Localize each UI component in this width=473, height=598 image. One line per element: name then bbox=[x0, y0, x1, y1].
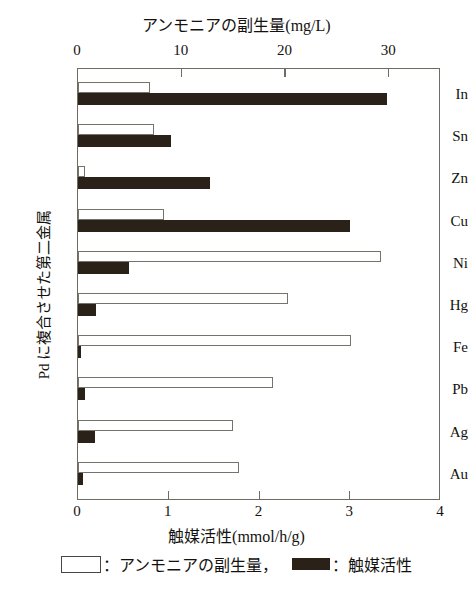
bar-ammonia-in bbox=[78, 82, 150, 93]
bar-ammonia-hg bbox=[78, 293, 288, 304]
top-tick-mark bbox=[77, 68, 78, 77]
bottom-tick-label: 3 bbox=[346, 503, 354, 520]
bar-activity-ni bbox=[78, 262, 129, 274]
category-label-cu: Cu bbox=[401, 212, 473, 229]
bottom-tick-label: 0 bbox=[73, 503, 81, 520]
bottom-tick-label: 4 bbox=[436, 503, 444, 520]
bottom-axis-title: 触媒活性(mmol/h/g) bbox=[0, 523, 473, 547]
legend-item-open: ：アンモニアの副生量， bbox=[61, 552, 278, 576]
bar-activity-pb bbox=[78, 388, 85, 400]
bottom-tick-label: 1 bbox=[164, 503, 172, 520]
bar-ammonia-fe bbox=[78, 335, 351, 346]
bar-activity-in bbox=[78, 93, 387, 105]
bar-activity-ag bbox=[78, 431, 95, 443]
category-label-ag: Ag bbox=[401, 423, 473, 440]
bar-activity-zn bbox=[78, 177, 210, 189]
bar-activity-sn bbox=[78, 135, 171, 147]
top-tick-label: 0 bbox=[73, 42, 81, 59]
category-label-in: In bbox=[401, 86, 473, 103]
legend-label-filled: ：触媒活性 bbox=[332, 552, 412, 576]
bottom-tick-label: 2 bbox=[255, 503, 263, 520]
bar-ammonia-pb bbox=[78, 377, 273, 388]
legend-label-open: ：アンモニアの副生量， bbox=[103, 552, 278, 576]
bar-activity-hg bbox=[78, 304, 96, 316]
top-tick-mark bbox=[181, 68, 182, 77]
bar-ammonia-sn bbox=[78, 124, 154, 135]
bar-activity-fe bbox=[78, 346, 81, 358]
category-label-sn: Sn bbox=[401, 128, 473, 145]
top-tick-label: 30 bbox=[381, 42, 396, 59]
bottom-tick-mark bbox=[168, 491, 169, 500]
category-label-fe: Fe bbox=[401, 339, 473, 356]
category-label-zn: Zn bbox=[401, 170, 473, 187]
category-label-hg: Hg bbox=[401, 297, 473, 314]
filled-bar-swatch-icon bbox=[292, 558, 330, 570]
open-bar-swatch-icon bbox=[61, 556, 101, 573]
bottom-tick-mark bbox=[259, 491, 260, 500]
bar-activity-cu bbox=[78, 220, 350, 232]
bar-activity-au bbox=[78, 473, 83, 485]
top-tick-label: 20 bbox=[277, 42, 292, 59]
bar-ammonia-au bbox=[78, 462, 239, 473]
top-tick-label: 10 bbox=[173, 42, 188, 59]
bar-ammonia-zn bbox=[78, 166, 85, 177]
bar-ammonia-cu bbox=[78, 209, 164, 220]
y-axis-title: Pd に複合させた第二金属 bbox=[32, 170, 53, 420]
bar-ammonia-ni bbox=[78, 251, 381, 262]
top-tick-mark bbox=[388, 68, 389, 77]
category-label-ni: Ni bbox=[401, 254, 473, 271]
top-axis-title: アンモニアの副生量(mg/L) bbox=[0, 12, 473, 36]
bar-ammonia-ag bbox=[78, 420, 233, 431]
category-label-au: Au bbox=[401, 465, 473, 482]
category-label-pb: Pb bbox=[401, 381, 473, 398]
top-tick-mark bbox=[284, 68, 285, 77]
chart-legend: ：アンモニアの副生量， ：触媒活性 bbox=[0, 552, 473, 576]
bottom-tick-mark bbox=[349, 491, 350, 500]
legend-item-filled: ：触媒活性 bbox=[292, 552, 412, 576]
chart-page: アンモニアの副生量(mg/L) 0102030 01234 InSnZnCuNi… bbox=[0, 0, 473, 598]
